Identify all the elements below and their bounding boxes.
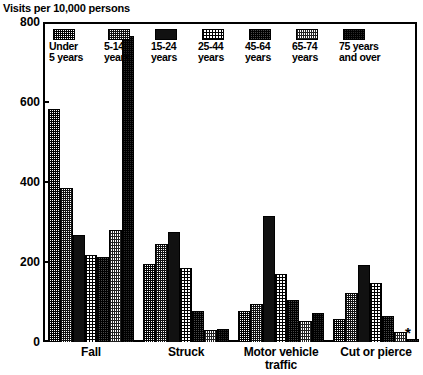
bar	[60, 188, 72, 342]
bar	[192, 311, 204, 342]
x-axis-category-label: Struck	[131, 346, 241, 359]
y-axis-tick-label: 0	[4, 335, 40, 349]
bar	[287, 300, 299, 342]
y-axis-tick-label: 400	[4, 175, 40, 189]
bar	[109, 230, 121, 342]
legend-entry: 25-44 years	[198, 29, 242, 63]
bar	[275, 274, 287, 342]
bar	[85, 255, 97, 342]
bar-chart: Visits per 10,000 persons 0200400600800 …	[0, 0, 423, 375]
bar	[180, 268, 192, 342]
bar	[204, 330, 216, 342]
bar	[299, 321, 311, 342]
legend-swatch	[296, 29, 318, 40]
x-axis-category-label: Motor vehicle traffic	[226, 346, 336, 372]
legend-label: 25-44 years	[198, 41, 224, 63]
bar	[143, 264, 155, 342]
legend-entry: 5-14 years	[104, 29, 148, 63]
legend-label: 45-64 years	[245, 41, 271, 63]
bar	[382, 316, 394, 342]
legend-entry: 45-64 years	[245, 29, 289, 63]
legend-entry: 15-24 years	[151, 29, 195, 63]
bar	[168, 232, 180, 342]
x-axis-category-label: Cut or pierce	[321, 346, 423, 359]
legend-label: 75 years and over	[339, 41, 380, 63]
legend-label: 15-24 years	[151, 41, 177, 63]
x-axis-category-label: Fall	[36, 346, 146, 359]
y-axis-tick-label: 600	[4, 95, 40, 109]
legend-swatch	[53, 29, 75, 40]
bar	[122, 36, 134, 342]
bar	[345, 293, 357, 342]
legend-entry: 75 years and over	[339, 29, 399, 63]
y-axis-tick-label: 800	[4, 15, 40, 29]
bar	[263, 216, 275, 342]
legend-swatch	[108, 29, 130, 40]
y-axis-tick-label: 200	[4, 255, 40, 269]
legend-swatch	[343, 29, 365, 40]
y-axis-title: Visits per 10,000 persons	[3, 2, 130, 14]
legend-label: 65-74 years	[292, 41, 318, 63]
bar	[217, 329, 229, 342]
legend-swatch	[249, 29, 271, 40]
chart-legend: Under 5 years5-14 years15-24 years25-44 …	[49, 29, 415, 75]
bar	[97, 257, 109, 342]
bar	[312, 313, 324, 342]
legend-swatch	[202, 29, 224, 40]
legend-label: Under 5 years	[49, 41, 83, 63]
bar	[358, 265, 370, 342]
bar	[333, 319, 345, 342]
bar	[370, 283, 382, 342]
bar	[73, 235, 85, 342]
bar	[250, 304, 262, 342]
bar	[238, 311, 250, 342]
legend-swatch	[155, 29, 177, 40]
bar	[48, 109, 60, 342]
footnote-asterisk: *	[405, 328, 411, 338]
legend-entry: Under 5 years	[49, 29, 101, 63]
legend-entry: 65-74 years	[292, 29, 336, 63]
legend-label: 5-14 years	[104, 41, 130, 63]
bar	[155, 244, 167, 342]
